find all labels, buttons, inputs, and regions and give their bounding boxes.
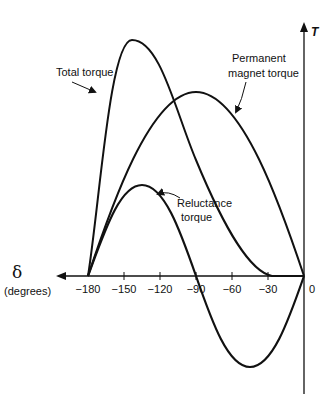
pm-torque-label-line2: magnet torque bbox=[228, 67, 299, 80]
reluctance-torque-label-line2: torque bbox=[181, 211, 212, 224]
reluctance-torque-label-line1: Reluctance bbox=[177, 197, 232, 210]
pm-torque-label-line1: Permanent bbox=[232, 52, 286, 65]
pm-torque-arrow-icon bbox=[236, 82, 246, 112]
origin-label: 0 bbox=[309, 283, 315, 295]
tick-label: −30 bbox=[259, 283, 278, 295]
total-torque-label: Total torque bbox=[56, 66, 113, 79]
tick-label: −120 bbox=[148, 283, 173, 295]
tick-label: −90 bbox=[187, 283, 206, 295]
tick-label: −180 bbox=[76, 283, 101, 295]
x-axis-unit: (degrees) bbox=[4, 285, 51, 297]
y-axis-label: T bbox=[311, 25, 318, 39]
x-axis-arrow-icon bbox=[56, 272, 66, 280]
pm-torque-curve bbox=[88, 92, 304, 276]
total-torque-arrow-icon bbox=[72, 82, 95, 92]
tick-label: −60 bbox=[223, 283, 242, 295]
tick-label: −150 bbox=[112, 283, 137, 295]
x-axis-symbol: δ bbox=[12, 262, 22, 282]
y-axis-arrow-icon bbox=[300, 22, 308, 32]
